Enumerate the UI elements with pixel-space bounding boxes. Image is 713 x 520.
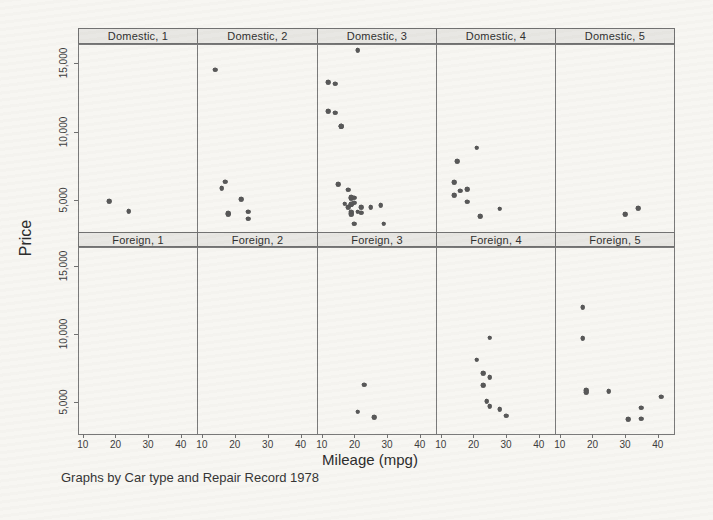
data-point <box>246 209 251 214</box>
data-point <box>487 335 492 340</box>
trellis-scatter-chart: Price Mileage (mpg) Graphs by Car type a… <box>0 0 713 520</box>
data-point <box>481 383 486 388</box>
data-point <box>333 82 338 87</box>
facet-panel <box>78 44 198 234</box>
data-point <box>636 206 641 211</box>
data-point <box>213 67 218 72</box>
data-point <box>580 305 585 310</box>
data-point <box>487 375 492 380</box>
facet-header: Foreign, 4 <box>436 232 556 247</box>
facet-panel <box>436 247 556 435</box>
x-axis-tick <box>420 434 421 438</box>
facet-header: Foreign, 3 <box>317 232 437 247</box>
x-axis-tick-label: 30 <box>501 439 512 450</box>
data-point <box>339 124 344 129</box>
x-axis-tick <box>592 434 593 438</box>
data-point <box>355 409 360 414</box>
data-point <box>349 195 354 200</box>
x-axis-tick-label: 20 <box>229 439 240 450</box>
data-point <box>368 205 373 210</box>
y-axis-tick <box>74 402 78 403</box>
x-axis-title: Mileage (mpg) <box>322 451 418 468</box>
x-axis-tick <box>387 434 388 438</box>
facet-header: Domestic, 4 <box>436 28 556 44</box>
data-point <box>623 212 628 217</box>
y-axis-tick-label: 10,000 <box>58 116 69 147</box>
data-point <box>455 159 460 164</box>
data-point <box>107 199 112 204</box>
facet-panel <box>78 247 198 435</box>
data-point <box>219 186 224 191</box>
x-axis-tick <box>322 434 323 438</box>
data-point <box>349 202 354 207</box>
x-axis-tick-label: 40 <box>295 439 306 450</box>
y-axis-title: Price <box>17 220 35 256</box>
facet-panel <box>555 44 675 234</box>
data-point <box>639 405 644 410</box>
data-point <box>465 200 470 205</box>
data-point <box>504 414 509 419</box>
facet-header: Foreign, 2 <box>197 232 318 247</box>
data-point <box>226 211 231 216</box>
facet-panel <box>317 44 437 234</box>
data-point <box>474 357 479 362</box>
data-point <box>239 197 244 202</box>
x-axis-tick <box>148 434 149 438</box>
x-axis-tick <box>658 434 659 438</box>
x-axis-tick-label: 20 <box>349 439 360 450</box>
data-point <box>382 221 387 226</box>
data-point <box>333 110 338 115</box>
data-point <box>481 371 486 376</box>
facet-header: Foreign, 1 <box>78 232 198 247</box>
data-point <box>346 187 351 192</box>
facet-header: Domestic, 3 <box>317 28 437 44</box>
x-axis-tick-label: 40 <box>533 439 544 450</box>
facet-header: Domestic, 1 <box>78 28 198 44</box>
y-axis-tick-label: 15,000 <box>58 47 69 78</box>
data-point <box>484 399 489 404</box>
x-axis-tick <box>354 434 355 438</box>
x-axis-tick-label: 20 <box>468 439 479 450</box>
facet-header: Domestic, 2 <box>197 28 318 44</box>
data-point <box>474 146 479 151</box>
x-axis-tick-label: 30 <box>382 439 393 450</box>
x-axis-tick <box>235 434 236 438</box>
data-point <box>362 382 367 387</box>
data-point <box>452 180 457 185</box>
data-point <box>487 404 492 409</box>
x-axis-tick <box>441 434 442 438</box>
y-axis-tick <box>74 200 78 201</box>
chart-caption: Graphs by Car type and Repair Record 197… <box>61 470 319 485</box>
x-axis-tick-label: 40 <box>652 439 663 450</box>
x-axis-tick <box>83 434 84 438</box>
x-axis-tick <box>202 434 203 438</box>
x-axis-tick <box>473 434 474 438</box>
y-axis-tick <box>74 334 78 335</box>
data-point <box>336 182 341 187</box>
data-point <box>326 109 331 114</box>
x-axis-tick <box>625 434 626 438</box>
x-axis-tick <box>506 434 507 438</box>
facet-header: Domestic, 5 <box>555 28 675 44</box>
data-point <box>659 394 664 399</box>
x-axis-tick <box>539 434 540 438</box>
data-point <box>355 209 360 214</box>
x-axis-tick-label: 10 <box>196 439 207 450</box>
data-point <box>223 180 228 185</box>
y-axis-tick <box>74 63 78 64</box>
data-point <box>326 80 331 85</box>
data-point <box>452 193 457 198</box>
x-axis-tick-label: 30 <box>620 439 631 450</box>
x-axis-tick-label: 10 <box>554 439 565 450</box>
data-point <box>497 407 502 412</box>
x-axis-tick-label: 30 <box>143 439 154 450</box>
x-axis-tick <box>560 434 561 438</box>
x-axis-tick-label: 30 <box>262 439 273 450</box>
y-axis-tick-label: 10,000 <box>58 319 69 350</box>
x-axis-tick <box>268 434 269 438</box>
data-point <box>378 203 383 208</box>
data-point <box>580 336 585 341</box>
x-axis-tick <box>181 434 182 438</box>
y-axis-tick-label: 15,000 <box>58 251 69 282</box>
y-axis-tick-label: 5,000 <box>58 188 69 213</box>
